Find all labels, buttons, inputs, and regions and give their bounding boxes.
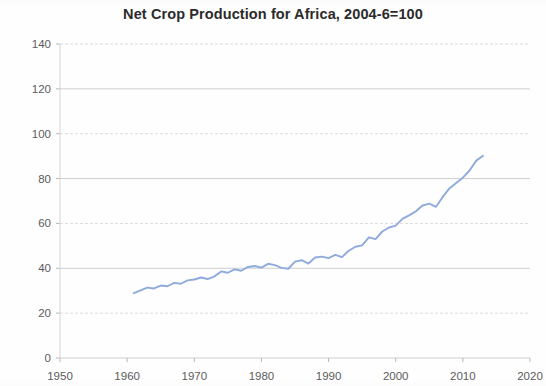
y-tick-label: 100 xyxy=(32,128,51,140)
x-tick-label: 1980 xyxy=(249,370,275,382)
line-chart-plot: 020406080100120140 195019601970198019902… xyxy=(0,0,546,386)
x-tick-label: 1960 xyxy=(114,370,140,382)
x-tick-label: 2000 xyxy=(383,370,409,382)
gridlines-group xyxy=(60,44,530,358)
x-axis-tick-labels: 19501960197019801990200020102020 xyxy=(47,370,543,382)
chart-figure: Net Crop Production for Africa, 2004-6=1… xyxy=(0,0,546,386)
y-tick-label: 80 xyxy=(38,173,51,185)
data-series-line xyxy=(134,156,483,293)
y-tick-label: 40 xyxy=(38,262,51,274)
y-tick-label: 60 xyxy=(38,217,51,229)
y-tick-label: 0 xyxy=(45,352,51,364)
y-tick-label: 20 xyxy=(38,307,51,319)
x-tick-label: 1970 xyxy=(181,370,207,382)
x-tick-label: 1950 xyxy=(47,370,73,382)
y-tick-label: 120 xyxy=(32,83,51,95)
x-tick-label: 2020 xyxy=(517,370,543,382)
y-tick-label: 140 xyxy=(32,38,51,50)
tickmarks-group xyxy=(56,44,530,362)
y-axis-tick-labels: 020406080100120140 xyxy=(32,38,51,364)
x-tick-label: 1990 xyxy=(316,370,342,382)
x-tick-label: 2010 xyxy=(450,370,476,382)
